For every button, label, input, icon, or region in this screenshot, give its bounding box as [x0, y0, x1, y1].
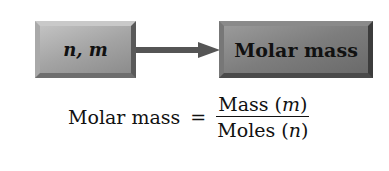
output-box-molar-mass: Molar mass — [219, 21, 373, 78]
formula-lhs: Molar mass — [68, 106, 180, 128]
numerator-variable: m — [282, 93, 300, 115]
molar-mass-formula: Molar mass = Mass (m) Moles (n) — [68, 93, 309, 141]
denominator-text: Moles ( — [217, 119, 288, 141]
numerator-text: Mass ( — [218, 93, 282, 115]
equals-sign: = — [190, 106, 206, 128]
fraction-numerator: Mass (m) — [216, 93, 309, 117]
output-box-label: Molar mass — [234, 39, 358, 61]
denominator-close: ) — [301, 119, 308, 141]
denominator-variable: n — [289, 119, 301, 141]
fraction-denominator: Moles (n) — [217, 117, 308, 141]
input-box-n-m: n, m — [35, 21, 136, 78]
fraction: Mass (m) Moles (n) — [216, 93, 309, 141]
input-box-label: n, m — [63, 39, 108, 60]
right-arrow-icon — [136, 41, 220, 59]
numerator-close: ) — [300, 93, 307, 115]
